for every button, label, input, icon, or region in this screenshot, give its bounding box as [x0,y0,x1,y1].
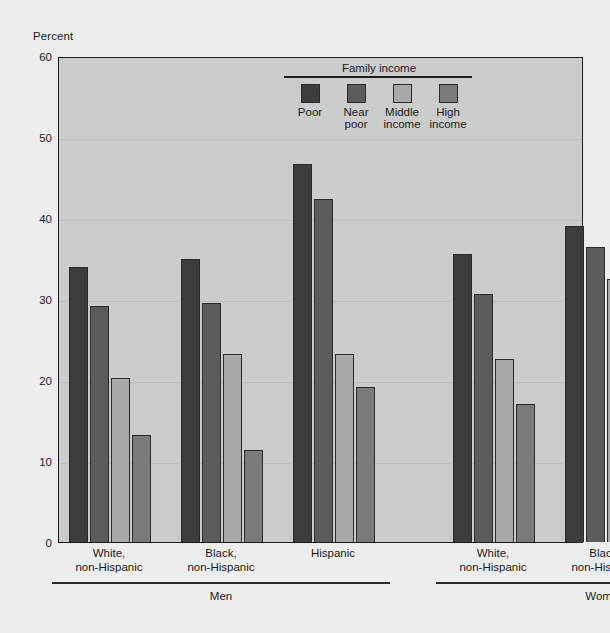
category-label: Black, non-Hispanic [538,547,610,574]
bar [495,359,514,542]
y-tick-10: 10 [6,456,52,468]
legend-swatch-icon [393,84,412,103]
bar [244,450,263,542]
supergroup-rule [52,582,390,584]
legend-item-label: High income [426,106,470,131]
y-tick-50: 50 [6,132,52,144]
bar-group [181,58,263,542]
legend-item[interactable]: Near poor [334,84,378,131]
supergroup-rule [436,582,610,584]
y-axis-tick-labels: 60 50 40 30 20 10 0 [0,57,52,543]
bar [293,164,312,542]
category-axis-labels: White, non-HispanicBlack, non-HispanicHi… [58,547,583,627]
legend-item-label: Poor [288,106,332,119]
legend-swatch-icon [301,84,320,103]
plot-inner [59,58,582,542]
bar [69,267,88,542]
legend-swatch-icon [439,84,458,103]
legend-item[interactable]: High income [426,84,470,131]
bar-group [293,58,375,542]
bar [181,259,200,543]
y-tick-40: 40 [6,213,52,225]
bar [314,199,333,542]
y-axis-title: Percent [33,30,73,42]
category-label: Hispanic [266,547,400,561]
supergroup-label: Men [52,590,390,602]
legend: Family income PoorNear poorMiddle income… [284,62,474,131]
legend-item-label: Middle income [380,106,424,131]
bar [586,247,605,542]
legend-item[interactable]: Poor [288,84,332,131]
legend-rule [284,76,472,78]
bar-group [453,58,535,542]
y-tick-20: 20 [6,375,52,387]
legend-title: Family income [284,62,474,74]
bar [356,387,375,542]
bar [335,354,354,542]
bar [516,404,535,542]
bar-group [565,58,610,542]
bar [474,294,493,542]
bar [132,435,151,542]
legend-items: PoorNear poorMiddle incomeHigh income [284,84,474,131]
legend-item[interactable]: Middle income [380,84,424,131]
bar [453,254,472,542]
bar [565,226,584,542]
y-tick-30: 30 [6,294,52,306]
bar [223,354,242,542]
legend-item-label: Near poor [334,106,378,131]
bar-group [69,58,151,542]
bar [90,306,109,542]
supergroup-label: Women [436,590,610,602]
bar [111,378,130,542]
bar [202,303,221,542]
legend-swatch-icon [347,84,366,103]
y-tick-60: 60 [6,51,52,63]
bar-chart-figure: Percent 60 50 40 30 20 10 0 Family incom… [0,0,610,633]
